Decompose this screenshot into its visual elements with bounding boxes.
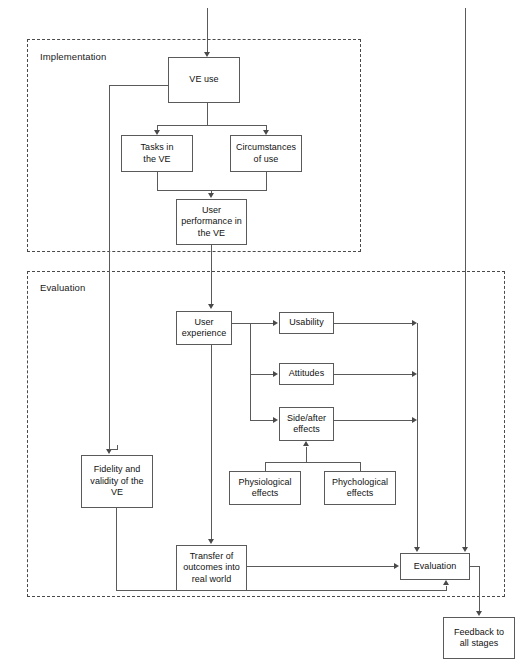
node-phychological-line1: Phychological	[332, 477, 388, 489]
connector-effects-merge-up	[306, 447, 307, 463]
connector-rail-jog-fidelity-v	[117, 445, 118, 450]
node-feedback-line1: Feedback to	[454, 627, 504, 639]
node-user-performance-line1: User	[181, 205, 242, 217]
node-attitudes[interactable]: Attitudes	[279, 363, 334, 385]
arrowhead-into-user-performance	[208, 193, 214, 198]
group-implementation-label: Implementation	[40, 51, 106, 62]
connector-physiological-up	[265, 462, 266, 471]
node-user-performance-line2: performance in	[181, 216, 242, 228]
node-tasks-line2: the VE	[141, 154, 174, 166]
connector-ve-use-to-rail	[109, 85, 168, 86]
node-physiological-effects[interactable]: Physiological effects	[229, 471, 301, 505]
connector-evaluation-out	[470, 566, 479, 567]
connector-user-performance-down	[211, 245, 212, 305]
node-attitudes-label: Attitudes	[289, 368, 324, 380]
arrowhead-into-feedback	[476, 611, 482, 616]
arrowhead-bottom-rail-into-evaluation	[443, 580, 449, 585]
node-physiological-line2: effects	[238, 488, 291, 500]
node-fidelity-and-validity-of-the-ve[interactable]: Fidelity and validity of the VE	[81, 455, 153, 508]
connector-branch-side-after	[250, 420, 274, 421]
arrowhead-transfer-into-evaluation	[394, 563, 399, 569]
connector-attitudes-right	[334, 374, 413, 375]
node-fidelity-line2: validity of the	[90, 476, 143, 488]
connector-branch-usability	[250, 323, 274, 324]
arrowhead-into-attitudes	[273, 371, 278, 377]
node-physiological-line1: Physiological	[238, 477, 291, 489]
connector-bottom-rail-up	[446, 586, 447, 591]
node-usability-label: Usability	[289, 317, 323, 329]
node-ve-use[interactable]: VE use	[168, 57, 240, 103]
arrowhead-into-side-after	[273, 417, 278, 423]
connector-tasks-down	[157, 172, 158, 190]
connector-effects-merge-bar	[265, 462, 361, 463]
connector-side-after-right	[334, 420, 413, 421]
node-user-experience-line2: experience	[182, 328, 227, 340]
node-user-experience[interactable]: User experience	[176, 311, 232, 345]
group-evaluation	[27, 271, 505, 597]
arrowhead-collector-into-evaluation	[414, 547, 420, 552]
connector-top-entry	[207, 8, 208, 53]
connector-circumstances-down	[266, 172, 267, 190]
connector-bottom-rail	[116, 590, 446, 591]
flowchart-canvas: Implementation Evaluation	[0, 0, 532, 669]
connector-left-rail-vertical	[109, 85, 110, 450]
node-user-performance-in-the-ve[interactable]: User performance in the VE	[176, 199, 247, 245]
group-evaluation-label: Evaluation	[40, 282, 85, 293]
connector-usability-right	[334, 323, 413, 324]
arrowhead-right-spine-into-evaluation	[462, 547, 468, 552]
node-fidelity-line3: VE	[90, 487, 143, 499]
node-transfer-of-outcomes-into-real-world[interactable]: Transfer of outcomes into real world	[176, 545, 247, 591]
node-feedback-line2: all stages	[454, 638, 504, 650]
node-tasks-line1: Tasks in	[141, 142, 174, 154]
node-evaluation-label: Evaluation	[414, 561, 457, 573]
connector-performance-to-transfer	[211, 345, 212, 540]
arrowhead-into-side-after-bottom	[303, 441, 309, 446]
connector-merge-bar	[157, 190, 267, 191]
node-evaluation[interactable]: Evaluation	[400, 553, 470, 580]
node-circumstances-line2: of use	[236, 154, 296, 166]
node-user-experience-line1: User	[182, 317, 227, 329]
node-side-after-line1: Side/after	[287, 413, 326, 425]
arrowhead-into-user-experience	[208, 304, 214, 309]
node-circumstances-line1: Circumstances	[236, 142, 296, 154]
node-tasks-in-the-ve[interactable]: Tasks in the VE	[121, 135, 193, 172]
node-transfer-line3: real world	[183, 574, 240, 586]
connector-ux-right-stub	[232, 323, 250, 324]
connector-ve-use-down	[207, 103, 208, 125]
node-fidelity-line1: Fidelity and	[90, 464, 143, 476]
connector-phychological-up	[360, 462, 361, 471]
connector-ux-distributor	[250, 323, 251, 420]
node-circumstances-of-use[interactable]: Circumstances of use	[230, 135, 302, 172]
node-phychological-line2: effects	[332, 488, 388, 500]
node-user-performance-line3: the VE	[181, 228, 242, 240]
node-usability[interactable]: Usability	[279, 312, 334, 334]
connector-evaluation-to-feedback	[479, 566, 480, 612]
connector-right-spine	[465, 8, 466, 548]
node-phychological-effects[interactable]: Phychological effects	[324, 471, 396, 505]
node-side-after-effects[interactable]: Side/after effects	[279, 407, 334, 441]
arrowhead-into-transfer	[208, 539, 214, 544]
node-transfer-line2: outcomes into	[183, 562, 240, 574]
arrowhead-into-usability	[273, 320, 278, 326]
node-feedback-to-all-stages[interactable]: Feedback to all stages	[443, 617, 515, 659]
connector-rail-jog-fidelity	[109, 449, 117, 450]
connector-branch-attitudes	[250, 374, 274, 375]
connector-collector-vertical	[417, 323, 418, 548]
connector-transfer-to-evaluation	[247, 566, 394, 567]
node-transfer-line1: Transfer of	[183, 551, 240, 563]
connector-fidelity-down	[116, 508, 117, 590]
node-side-after-line2: effects	[287, 424, 326, 436]
node-ve-use-label: VE use	[189, 74, 218, 86]
connector-split-bar-top	[157, 125, 267, 126]
